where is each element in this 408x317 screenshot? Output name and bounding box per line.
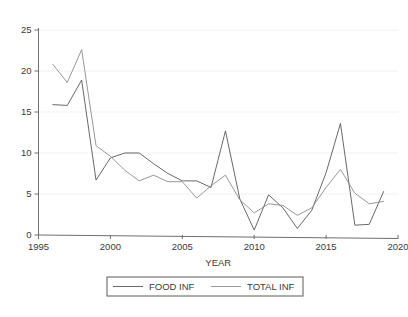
x-tick-label-2015: 2015 [316,241,337,252]
gridlines-group [39,30,399,194]
line-chart-plot: 0510152025 199520002005201020152020 YEAR… [0,0,408,317]
y-axis-ticks-group: 0510152025 [21,24,39,240]
x-tick-label-2005: 2005 [172,241,193,252]
x-axis-line [39,235,399,239]
x-tick-label-2020: 2020 [387,241,408,252]
y-tick-label-0: 0 [26,229,31,240]
y-tick-label-20: 20 [21,65,32,76]
x-tick-label-2010: 2010 [244,241,265,252]
data-series-group [53,50,384,230]
legend-label-food-inf: FOOD INF [149,281,195,292]
y-tick-label-25: 25 [21,24,32,35]
x-axis-title: YEAR [205,257,231,268]
chart-container: 0510152025 199520002005201020152020 YEAR… [0,0,408,317]
x-tick-label-2000: 2000 [100,241,121,252]
legend-label-total-inf: TOTAL INF [247,281,295,292]
x-tick-label-1995: 1995 [28,241,49,252]
axis-lines-group [39,28,399,239]
y-tick-label-15: 15 [21,106,32,117]
chart-legend: FOOD INFTOTAL INF [107,277,303,296]
series-line-total-inf [53,50,384,216]
y-tick-label-5: 5 [26,188,31,199]
y-tick-label-10: 10 [21,147,32,158]
series-line-food-inf [53,80,384,230]
